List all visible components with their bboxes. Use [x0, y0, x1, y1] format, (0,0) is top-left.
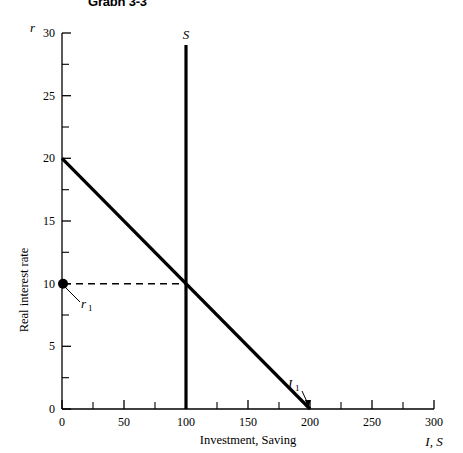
x-axis-major-ticks	[62, 400, 434, 409]
y-tick-label: 0	[49, 402, 55, 416]
x-tick-label: 300	[425, 415, 443, 429]
x-axis-symbol: I, S	[424, 434, 443, 449]
y-tick-labels: 30 25 20 15 10 5 0	[43, 26, 55, 416]
x-tick-labels: 0 50 100 150 200 250 300	[59, 415, 443, 429]
y-tick-label: 15	[43, 214, 55, 228]
x-axis-label: Investment, Saving	[200, 433, 297, 447]
x-tick-label: 200	[301, 415, 319, 429]
y-tick-label: 30	[43, 26, 55, 40]
saving-curve-label: S	[183, 27, 190, 42]
axes-group	[62, 33, 434, 409]
r1-label: r 1	[81, 296, 93, 313]
y-tick-label: 20	[43, 151, 55, 165]
y-axis-label: Real interest rate	[17, 247, 31, 332]
investment-curve-label-text: I	[287, 376, 293, 391]
y-axis-major-ticks	[62, 33, 71, 409]
x-tick-label: 0	[59, 415, 65, 429]
x-tick-label: 100	[177, 415, 195, 429]
y-axis-symbol: r	[30, 20, 36, 35]
x-tick-label: 50	[118, 415, 130, 429]
y-tick-label: 25	[43, 89, 55, 103]
graph-figure: Graph 3-3	[0, 0, 463, 453]
x-tick-label: 250	[363, 415, 381, 429]
equilibrium-rate-point	[58, 279, 68, 289]
chart-canvas: 30 25 20 15 10 5 0 0 50 100 150 200 250 …	[0, 0, 463, 453]
x-tick-label: 150	[239, 415, 257, 429]
investment-curve-label: I 1	[287, 376, 311, 408]
y-tick-label: 10	[43, 277, 55, 291]
investment-curve-label-subscript: 1	[295, 383, 300, 393]
r1-label-subscript: 1	[88, 303, 93, 313]
r1-leader-line	[66, 288, 80, 302]
y-tick-label: 5	[49, 339, 55, 353]
r1-label-text: r	[81, 296, 87, 311]
